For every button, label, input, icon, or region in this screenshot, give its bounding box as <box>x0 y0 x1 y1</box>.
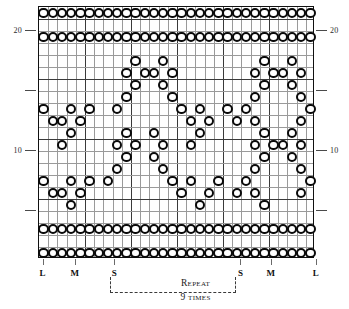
chart-bead <box>287 56 297 66</box>
chart-bead <box>296 68 306 78</box>
chart-bead <box>287 152 297 162</box>
chart-bead <box>167 92 177 102</box>
column-tick <box>316 259 317 265</box>
chart-bead <box>66 176 76 186</box>
chart-bead <box>75 188 85 198</box>
chart-bead <box>250 188 260 198</box>
chart-bead <box>38 176 48 186</box>
column-marker-m: M <box>71 268 80 278</box>
column-tick <box>43 259 44 265</box>
chart-bead <box>66 128 76 138</box>
chart-bead <box>57 116 67 126</box>
axis-label-left-10: 10 <box>6 146 22 155</box>
chart-bead <box>213 176 223 186</box>
chart-bead <box>112 164 122 174</box>
axis-tick-left-15 <box>25 90 36 91</box>
chart-bead <box>296 140 306 150</box>
repeat-label-text: Repeat <box>177 278 214 288</box>
chart-bead <box>250 140 260 150</box>
axis-label-right-20: 20 <box>330 26 338 35</box>
chart-bead <box>84 104 94 114</box>
chart-bead <box>305 176 315 186</box>
chart-bead <box>121 128 131 138</box>
chart-bead <box>259 128 269 138</box>
bead-layer <box>39 7 313 257</box>
column-marker-l: L <box>40 268 46 278</box>
chart-bead <box>241 176 251 186</box>
chart-bead <box>259 80 269 90</box>
axis-tick-right-20 <box>316 30 327 31</box>
chart-bead <box>241 104 251 114</box>
chart-bead <box>296 116 306 126</box>
chart-bead <box>84 176 94 186</box>
axis-tick-right-10 <box>316 150 327 151</box>
chart-bead <box>121 68 131 78</box>
chart-bead <box>278 140 288 150</box>
chart-bead <box>149 152 159 162</box>
chart-bead <box>195 104 205 114</box>
repeat-count-text: 9 times <box>180 292 210 302</box>
chart-bead <box>66 104 76 114</box>
chart-bead <box>57 188 67 198</box>
chart-bead <box>287 128 297 138</box>
chart-bead <box>250 116 260 126</box>
repeat-count: 9 times <box>0 292 349 302</box>
axis-tick-right-15 <box>316 90 327 91</box>
axis-tick-left-10 <box>25 150 36 151</box>
chart-bead <box>305 32 315 42</box>
chart-bead <box>158 56 168 66</box>
chart-bead <box>176 104 186 114</box>
chart-bead <box>204 116 214 126</box>
axis-label-left-20: 20 <box>6 26 22 35</box>
chart-bead <box>158 80 168 90</box>
chart-bead <box>158 140 168 150</box>
chart-bead <box>186 116 196 126</box>
chart-bead <box>222 104 232 114</box>
chart-bead <box>121 92 131 102</box>
chart-bead <box>305 8 315 18</box>
chart-bead <box>75 116 85 126</box>
chart-bead <box>186 176 196 186</box>
axis-tick-left-5 <box>25 210 36 211</box>
chart-bead <box>167 176 177 186</box>
chart-bead <box>250 68 260 78</box>
chart-bead <box>149 68 159 78</box>
repeat-label: Repeat <box>0 278 349 288</box>
column-marker-l: L <box>313 268 319 278</box>
column-marker-m: M <box>267 268 276 278</box>
chart-bead <box>195 128 205 138</box>
chart-bead <box>66 200 76 210</box>
axis-tick-left-20 <box>25 30 36 31</box>
chart-bead <box>130 80 140 90</box>
chart-grid <box>38 6 314 258</box>
chart-bead <box>259 56 269 66</box>
chart-bead <box>232 188 242 198</box>
knitting-chart: 20 10 20 10 LMSSML Repeat 9 times <box>0 0 349 309</box>
column-tick <box>75 259 76 265</box>
chart-bead <box>305 248 315 258</box>
chart-bead <box>232 116 242 126</box>
chart-bead <box>305 104 315 114</box>
chart-bead <box>259 200 269 210</box>
chart-bead <box>57 140 67 150</box>
chart-bead <box>305 224 315 234</box>
chart-bead <box>130 140 140 150</box>
axis-tick-right-5 <box>316 210 327 211</box>
chart-bead <box>296 188 306 198</box>
chart-bead <box>204 188 214 198</box>
chart-bead <box>296 92 306 102</box>
chart-bead <box>121 152 131 162</box>
chart-bead <box>296 164 306 174</box>
chart-bead <box>38 104 48 114</box>
chart-bead <box>250 92 260 102</box>
chart-bead <box>250 164 260 174</box>
column-tick <box>240 259 241 265</box>
chart-bead <box>176 188 186 198</box>
chart-bead <box>287 80 297 90</box>
chart-bead <box>112 140 122 150</box>
chart-bead <box>186 140 196 150</box>
chart-bead <box>278 68 288 78</box>
chart-bead <box>167 68 177 78</box>
column-tick <box>114 259 115 265</box>
chart-bead <box>103 176 113 186</box>
